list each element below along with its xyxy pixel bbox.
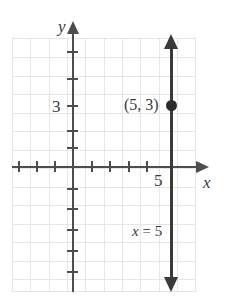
gridline-horizontal	[12, 131, 196, 132]
gridline-horizontal	[12, 113, 196, 114]
gridline-horizontal	[12, 205, 196, 206]
plotted-line-x-equals-5	[170, 46, 173, 282]
y-axis-label: y	[58, 18, 66, 35]
grid	[12, 38, 196, 292]
x-axis-tick	[109, 161, 111, 172]
y-axis-tick-label-3: 3	[52, 98, 61, 115]
y-axis-tick	[67, 51, 78, 53]
plotted-point-marker	[166, 100, 177, 111]
point-coordinate-label: (5, 3)	[124, 97, 159, 113]
x-axis-arrow-icon	[196, 161, 209, 173]
y-axis-line	[72, 32, 74, 292]
gridline-horizontal	[12, 76, 196, 77]
x-axis-tick	[146, 161, 148, 172]
coordinate-plane-figure: y x 3 5 (5, 3) x = 5	[0, 0, 227, 306]
x-axis-tick	[91, 161, 93, 172]
gridline-horizontal	[12, 150, 196, 151]
gridline-horizontal	[12, 224, 196, 225]
plotted-line-arrow-up-icon	[164, 34, 178, 49]
x-axis-tick-label-5: 5	[154, 172, 163, 189]
y-axis-tick	[67, 78, 78, 80]
y-axis-tick	[67, 147, 78, 149]
gridline-horizontal	[12, 94, 196, 95]
gridline-horizontal	[12, 168, 196, 169]
equation-label: x = 5	[132, 224, 162, 239]
equation-variable: x	[132, 223, 139, 239]
y-axis-tick	[67, 271, 78, 273]
gridline-horizontal	[12, 261, 196, 262]
gridline-horizontal	[12, 187, 196, 188]
gridline-horizontal	[12, 57, 196, 58]
y-axis-tick	[67, 250, 78, 252]
y-axis-tick	[67, 130, 78, 132]
x-axis-tick	[36, 161, 38, 172]
y-axis-tick	[67, 208, 78, 210]
y-axis-tick	[67, 188, 78, 190]
x-axis-tick	[18, 161, 20, 172]
equation-remainder: = 5	[139, 223, 162, 239]
y-axis-tick	[67, 105, 78, 107]
gridline-horizontal	[12, 242, 196, 243]
x-axis-tick	[128, 161, 130, 172]
x-axis-label: x	[203, 174, 211, 191]
y-axis-tick	[67, 229, 78, 231]
x-axis-tick	[54, 161, 56, 172]
plotted-line-arrow-down-icon	[164, 277, 178, 292]
y-axis-arrow-icon	[67, 21, 79, 34]
